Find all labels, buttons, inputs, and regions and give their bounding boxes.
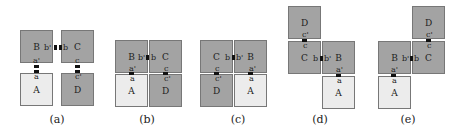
tile-label: D — [413, 18, 444, 28]
caption-e: (e) — [400, 113, 415, 126]
port-label-c: c — [427, 42, 431, 50]
port-label-a-prime: a' — [391, 66, 398, 74]
port-label-b-prime: b' — [402, 55, 409, 63]
port-label-a: a — [392, 77, 397, 85]
panel-e: D B C A c' c b' b a' a (e) — [0, 0, 457, 136]
tile-label: A — [379, 88, 410, 98]
port-b-joint — [410, 56, 413, 61]
port-label-c-prime: c' — [426, 31, 433, 39]
port-label-b: b — [414, 55, 419, 63]
